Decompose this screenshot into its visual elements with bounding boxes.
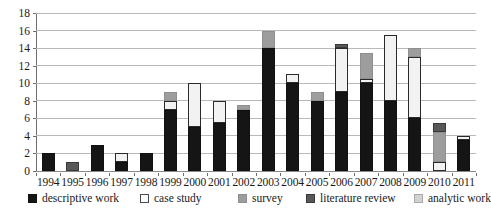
bar-segment <box>213 123 226 171</box>
legend-swatch-icon <box>140 194 149 203</box>
bar-segment <box>457 140 470 171</box>
y-axis-tick-label: 10 <box>2 77 30 89</box>
bar-segment <box>360 83 373 171</box>
plot-area <box>36 13 476 171</box>
bar-stack <box>164 13 177 171</box>
y-axis-tick-label: 18 <box>2 7 30 19</box>
bar-segment <box>360 53 373 79</box>
bar-segment <box>66 162 79 171</box>
bar-segment <box>188 83 201 127</box>
legend-label: descriptive work <box>42 191 119 205</box>
y-axis-tick-label: 12 <box>2 60 30 72</box>
bar-stack <box>237 13 250 171</box>
bar-stack <box>42 13 55 171</box>
x-axis-tick-mark <box>476 173 477 176</box>
bar-segment <box>433 162 446 171</box>
y-axis-tick-label: 14 <box>2 42 30 54</box>
y-axis-tick-label: 8 <box>2 95 30 107</box>
legend-label: case study <box>154 191 202 205</box>
bar-segment <box>311 101 324 171</box>
bar-segment <box>286 83 299 171</box>
bar-segment <box>188 127 201 171</box>
legend-item-literature[interactable]: literature review <box>306 191 396 205</box>
bar-stack <box>360 13 373 171</box>
legend-item-survey[interactable]: survey <box>238 191 283 205</box>
bar-stack <box>66 13 79 171</box>
y-axis-tick-label: 0 <box>2 165 30 177</box>
bar-stack <box>115 13 128 171</box>
legend-label: literature review <box>320 191 396 205</box>
bar-segment <box>91 145 104 171</box>
bar-stack <box>433 13 446 171</box>
bar-segment <box>433 132 446 163</box>
bar-segment <box>237 105 250 109</box>
legend-item-descriptive[interactable]: descriptive work <box>28 191 119 205</box>
bar-stack <box>335 13 348 171</box>
legend-label: survey <box>252 191 283 205</box>
bar-stack <box>311 13 324 171</box>
y-axis-tick-label: 6 <box>2 112 30 124</box>
bar-stack <box>457 13 470 171</box>
bar-segment <box>164 101 177 110</box>
y-axis-tick-label: 4 <box>2 130 30 142</box>
y-axis-tick-label: 16 <box>2 25 30 37</box>
bar-segment <box>457 136 470 140</box>
bar-segment <box>384 35 397 101</box>
bar-stack <box>140 13 153 171</box>
bar-segment <box>286 74 299 83</box>
legend-label: analytic work <box>428 191 491 205</box>
bar-segment <box>408 118 421 171</box>
legend-swatch-icon <box>28 194 37 203</box>
bar-segment <box>335 48 348 92</box>
bar-stack <box>262 13 275 171</box>
bar-segment <box>42 153 55 171</box>
bar-stack <box>286 13 299 171</box>
bar-segment <box>115 153 128 162</box>
x-axis-tick-group: 1994199519961997199819992000200120022003… <box>36 173 476 189</box>
bar-segment <box>433 123 446 132</box>
x-axis-tick-label: 2011 <box>449 176 479 189</box>
bar-segment <box>311 92 324 101</box>
bar-stack <box>188 13 201 171</box>
bar-segment <box>408 57 421 118</box>
bar-segment <box>213 101 226 123</box>
legend-item-analytic[interactable]: analytic work <box>414 191 491 205</box>
legend-swatch-icon <box>306 194 315 203</box>
bar-segment <box>335 92 348 171</box>
bar-segment <box>164 92 177 101</box>
bar-stack <box>408 13 421 171</box>
bar-segment <box>384 101 397 171</box>
chart-legend: descriptive workcase studysurveyliteratu… <box>0 191 483 209</box>
bar-segment <box>408 48 421 57</box>
bar-segment <box>115 162 128 171</box>
legend-swatch-icon <box>414 194 423 203</box>
bar-segment <box>164 110 177 171</box>
bar-segment <box>360 79 373 83</box>
bar-group <box>36 13 476 171</box>
bar-stack <box>384 13 397 171</box>
bar-segment <box>262 48 275 171</box>
legend-item-case[interactable]: case study <box>140 191 202 205</box>
bar-stack <box>91 13 104 171</box>
bar-segment <box>335 44 348 48</box>
bar-segment <box>237 110 250 171</box>
legend-swatch-icon <box>238 194 247 203</box>
y-axis-tick-label: 2 <box>2 147 30 159</box>
bar-segment <box>262 31 275 49</box>
bar-segment <box>140 153 153 171</box>
bar-stack <box>213 13 226 171</box>
